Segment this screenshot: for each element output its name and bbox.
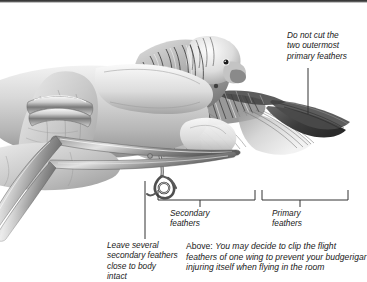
figure-caption: Above: You may decide to clip the flight… <box>186 241 367 273</box>
annotation-leave-several: Leave several secondary feathers close t… <box>107 240 185 282</box>
page-edge-band <box>0 0 367 3</box>
annotation-do-not-cut: Do not cut the two outermost primary fea… <box>287 30 365 61</box>
wing-clipping-figure: Wing clipping <box>0 0 367 282</box>
caption-lead: Above: <box>186 241 215 251</box>
label-primary-feathers: Primary feathers <box>272 208 332 229</box>
label-secondary-feathers: Secondary feathers <box>170 208 234 229</box>
